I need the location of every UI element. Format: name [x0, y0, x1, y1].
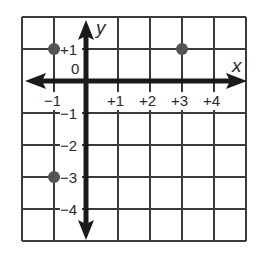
y-tick-label: +1 — [60, 41, 77, 58]
coordinate-plane: y x −1 +1 +2 +3 +4 +1 0 −1 −2 −3 −4 — [0, 0, 262, 257]
y-tick-labels: +1 0 −1 −2 −3 −4 — [60, 41, 82, 218]
point-3-1 — [176, 43, 188, 55]
x-tick-label: +4 — [203, 92, 220, 109]
y-axis-label: y — [94, 17, 107, 38]
x-tick-label: −1 — [44, 92, 61, 109]
y-tick-label: −1 — [60, 105, 77, 122]
x-tick-label: +3 — [171, 92, 188, 109]
x-tick-label: +2 — [139, 92, 156, 109]
y-tick-label: −2 — [60, 137, 77, 154]
y-tick-label: 0 — [71, 60, 79, 77]
x-axis-label: x — [231, 55, 243, 76]
point-neg1-1 — [48, 43, 60, 55]
y-tick-label: −3 — [60, 169, 77, 186]
y-tick-label: −4 — [60, 201, 77, 218]
x-tick-label: +1 — [107, 92, 124, 109]
point-neg1-neg3 — [48, 171, 60, 183]
